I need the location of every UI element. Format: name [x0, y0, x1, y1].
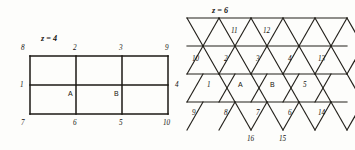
tri-site-label-6: 6: [288, 109, 292, 117]
tri-diag-l-e1: [331, 18, 347, 46]
left-coordination-label: z = 4: [40, 34, 57, 43]
tri-site-label-10: 10: [192, 55, 200, 63]
tri-diag-r-c2: [267, 46, 283, 74]
tri-site-label-14: 14: [318, 109, 326, 117]
tri-site-label-16: 16: [247, 135, 255, 143]
tri-interior-label-a: A: [238, 81, 243, 88]
site-label-bottom-mid-left: 6: [73, 119, 77, 127]
tri-site-label-15: 15: [279, 135, 287, 143]
site-label-top-right: 9: [165, 44, 169, 52]
tri-diag-l-a1: [203, 18, 219, 46]
site-label-top-mid-right: 3: [118, 44, 123, 52]
site-label-top-mid-left: 2: [73, 44, 77, 52]
square-grid-lines: [30, 56, 168, 114]
tri-diag-r-c4: [299, 102, 315, 130]
tri-diag-r-a4: [235, 102, 251, 130]
tri-diag-r-a2: [203, 46, 219, 74]
tri-site-label-7: 7: [256, 109, 260, 117]
tri-diag-r-e2: [331, 46, 347, 74]
tri-diag-r-b2: [235, 46, 251, 74]
tri-diag-r-d4: [331, 102, 347, 130]
interior-label-a: A: [68, 90, 73, 97]
tri-site-label-12: 12: [263, 27, 271, 35]
tri-diag-r-f2: [347, 74, 355, 102]
tri-diag-r-f1: [347, 18, 355, 46]
lattice-figure-svg: z = 4 8 2 3 9 1 4 7 6 5 10 A B: [0, 0, 355, 150]
site-label-bottom-right: 10: [163, 119, 171, 127]
tri-site-label-1: 1: [207, 81, 211, 89]
tri-diag-l-f1: [347, 46, 355, 74]
tri-diag-r-d2: [299, 46, 315, 74]
tri-site-label-8: 8: [224, 109, 228, 117]
tri-site-label-13: 13: [318, 55, 326, 63]
tri-site-label-11: 11: [231, 27, 238, 35]
tri-site-label-2: 2: [224, 55, 228, 63]
tri-diag-l-f2: [347, 102, 355, 130]
tri-site-label-9: 9: [192, 109, 196, 117]
left-panel-square-lattice: z = 4 8 2 3 9 1 4 7 6 5 10 A B: [20, 34, 179, 127]
site-label-top-left: 8: [21, 44, 25, 52]
tri-site-label-5: 5: [303, 81, 307, 89]
tri-diag-r-b4: [267, 102, 283, 130]
tri-diag-r-a1: [187, 18, 203, 46]
interior-label-b: B: [114, 90, 119, 97]
tri-interior-label-b: B: [270, 81, 275, 88]
figure-root: z = 4 8 2 3 9 1 4 7 6 5 10 A B: [0, 0, 355, 150]
site-label-right-mid: 4: [175, 81, 179, 89]
tri-diag-l-d1: [299, 18, 315, 46]
right-panel-triangular-lattice: z = 6 11 12 10 2 3 4 13 1 A B 5 9 8 7 6 …: [187, 6, 355, 143]
tri-site-label-4: 4: [288, 55, 292, 63]
tri-diag-r-e1: [315, 18, 331, 46]
right-coordination-label: z = 6: [211, 6, 229, 15]
tri-diag-l-a3: [187, 74, 203, 102]
site-label-left-mid: 1: [20, 81, 24, 89]
tri-diag-r-d1: [283, 18, 299, 46]
tri-site-label-3: 3: [255, 55, 260, 63]
site-label-bottom-left: 7: [21, 119, 25, 127]
site-label-bottom-mid-right: 5: [119, 119, 123, 127]
